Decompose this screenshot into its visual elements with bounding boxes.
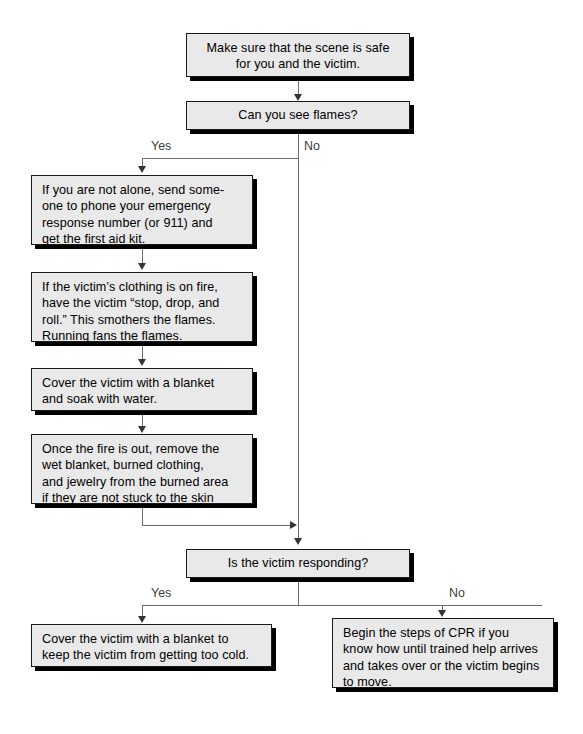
connector-flames-stem (298, 134, 299, 158)
node-victim-responding: Is the victim responding? (186, 549, 410, 578)
arrowhead-down-to-call-help (138, 166, 146, 173)
node-remove-items: Once the fire is out, remove the wet bla… (31, 434, 253, 504)
connector-responding-split-horizontal (142, 605, 542, 606)
node-scene-safe-text: Make sure that the scene is safe for you… (196, 40, 400, 73)
node-victim-responding-text: Is the victim responding? (196, 555, 400, 571)
node-cover-warm-text: Cover the victim with a blanket to keep … (42, 631, 262, 664)
node-call-help-text: If you are not alone, send some- one to … (42, 182, 243, 248)
branch-label-responding-no: No (449, 586, 465, 600)
branch-label-responding-yes: Yes (151, 586, 171, 600)
arrowhead-down-to-cover-soak (138, 359, 146, 366)
connector-responding-stem (298, 582, 299, 605)
node-cover-soak-text: Cover the victim with a blanket and soak… (42, 375, 243, 408)
connector-remove-items-merge-drop (142, 508, 143, 525)
arrowhead-down-to-begin-cpr (438, 610, 446, 617)
arrowhead-right-merge (290, 521, 297, 529)
node-cover-warm: Cover the victim with a blanket to keep … (31, 624, 272, 667)
connector-flames-no-vertical (298, 158, 299, 525)
node-begin-cpr: Begin the steps of CPR if you know how u… (332, 618, 554, 688)
arrowhead-down-to-remove-items (138, 426, 146, 433)
node-see-flames-text: Can you see flames? (196, 107, 400, 123)
node-cover-soak: Cover the victim with a blanket and soak… (31, 368, 253, 411)
arrowhead-down-to-responding (294, 538, 302, 545)
branch-label-flames-no: No (304, 139, 320, 153)
node-scene-safe: Make sure that the scene is safe for you… (186, 33, 410, 77)
arrowhead-down-to-flames (294, 94, 302, 101)
arrowhead-down-to-cover-warm (138, 616, 146, 623)
connector-merge-horizontal (142, 525, 291, 526)
connector-flames-yes-horizontal (142, 158, 299, 159)
node-see-flames: Can you see flames? (186, 101, 410, 130)
node-stop-drop-roll-text: If the victim’s clothing is on fire, hav… (42, 279, 243, 345)
node-remove-items-text: Once the fire is out, remove the wet bla… (42, 441, 243, 507)
node-stop-drop-roll: If the victim’s clothing is on fire, hav… (31, 272, 253, 342)
branch-label-flames-yes: Yes (151, 139, 171, 153)
node-begin-cpr-text: Begin the steps of CPR if you know how u… (343, 625, 544, 691)
flowchart-canvas: Make sure that the scene is safe for you… (0, 0, 583, 734)
arrowhead-down-to-stop-drop-roll (138, 263, 146, 270)
node-call-help: If you are not alone, send some- one to … (31, 175, 253, 245)
